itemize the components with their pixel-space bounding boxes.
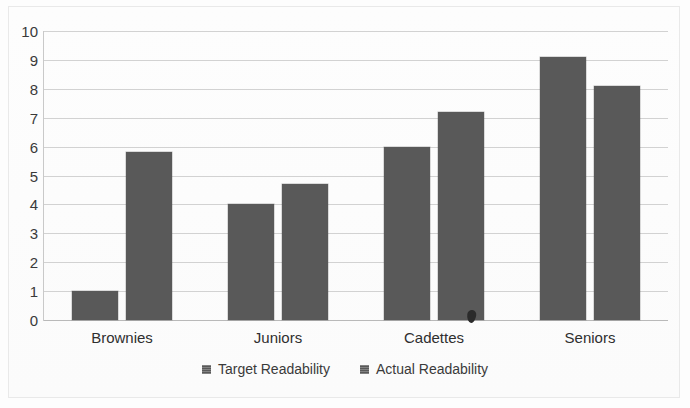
bar-group xyxy=(44,31,200,320)
bar[interactable] xyxy=(594,86,640,320)
y-axis-tick-label: 8 xyxy=(30,81,38,96)
legend-label: Target Readability xyxy=(218,362,330,376)
y-axis-tick-label: 0 xyxy=(30,313,38,328)
legend-square-icon xyxy=(202,365,211,374)
y-axis-tick-label: 7 xyxy=(30,110,38,125)
chart-legend: Target ReadabilityActual Readability xyxy=(0,362,690,376)
axis-baseline xyxy=(44,320,668,321)
bar[interactable] xyxy=(384,147,430,320)
bar-group xyxy=(512,31,668,320)
y-axis-tick-label: 4 xyxy=(30,197,38,212)
bar[interactable] xyxy=(228,204,274,320)
y-axis-tick-label: 2 xyxy=(30,255,38,270)
bar[interactable] xyxy=(540,57,586,320)
y-axis-tick-labels: 109876543210 xyxy=(0,0,44,408)
y-axis-tick-label: 10 xyxy=(21,24,38,39)
legend-label: Actual Readability xyxy=(376,362,488,376)
bars-layer xyxy=(44,31,668,320)
x-axis-category-label: Seniors xyxy=(512,328,668,348)
chart-figure: 109876543210 BrowniesJuniorsCadettesSeni… xyxy=(0,0,690,408)
bar[interactable] xyxy=(438,112,484,320)
bar[interactable] xyxy=(72,291,118,320)
bar[interactable] xyxy=(126,152,172,320)
x-axis-category-labels: BrowniesJuniorsCadettesSeniors xyxy=(44,328,668,352)
legend-item[interactable]: Target Readability xyxy=(202,362,330,376)
x-axis-category-label: Juniors xyxy=(200,328,356,348)
y-axis-tick-label: 6 xyxy=(30,139,38,154)
y-axis-tick-label: 1 xyxy=(30,284,38,299)
plot-area xyxy=(44,31,668,320)
bar[interactable] xyxy=(282,184,328,320)
legend-square-icon xyxy=(360,365,369,374)
legend-item[interactable]: Actual Readability xyxy=(360,362,488,376)
x-axis-category-label: Brownies xyxy=(44,328,200,348)
x-axis-category-label: Cadettes xyxy=(356,328,512,348)
bar-group xyxy=(356,31,512,320)
y-axis-tick-label: 9 xyxy=(30,52,38,67)
bar-group xyxy=(200,31,356,320)
y-axis-tick-label: 5 xyxy=(30,168,38,183)
y-axis-tick-label: 3 xyxy=(30,226,38,241)
